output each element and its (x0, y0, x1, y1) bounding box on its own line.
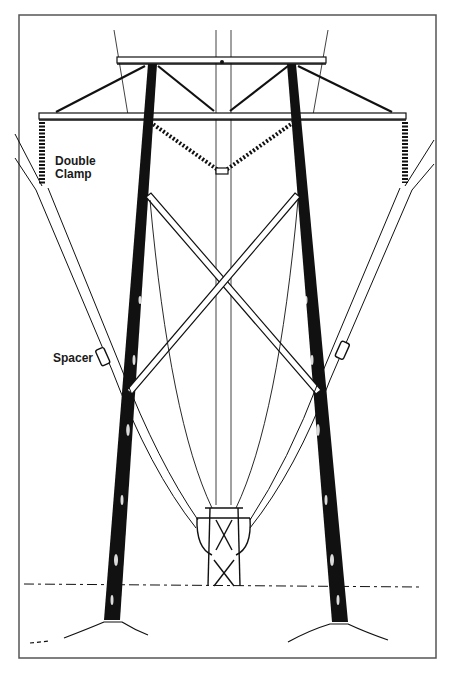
transmission-tower-illustration: Double Clamp Spacer (0, 0, 451, 677)
label-spacer: Spacer (53, 352, 93, 365)
lower-crossarm (39, 113, 406, 120)
label-double-clamp: Double Clamp (55, 155, 96, 181)
tower-drawing (0, 0, 451, 677)
top-crossarm (117, 57, 326, 64)
figure-frame (19, 15, 436, 658)
